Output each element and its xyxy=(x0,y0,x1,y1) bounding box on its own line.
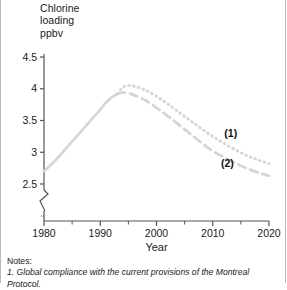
series-annotation-2: (2) xyxy=(221,157,234,169)
x-tick-label: 1980 xyxy=(32,227,56,239)
chart-notes: Notes: 1. Global compliance with the cur… xyxy=(7,256,283,290)
y-tick-label: 4.5 xyxy=(22,51,37,63)
series-line-2 xyxy=(117,93,269,176)
x-tick-label: 2020 xyxy=(257,227,281,239)
series-line-historical xyxy=(44,94,117,171)
y-tick-label: 4 xyxy=(31,82,37,94)
x-tick-label: 2000 xyxy=(145,227,169,239)
y-axis-break-symbol xyxy=(40,190,48,211)
notes-item-1: 1. Global compliance with the current pr… xyxy=(7,267,283,290)
x-axis-title: Year xyxy=(145,241,168,253)
y-tick-label: 3.5 xyxy=(22,114,37,126)
y-tick-label: 2.5 xyxy=(22,178,37,190)
series-annotation-1: (1) xyxy=(224,127,237,139)
series-line-1 xyxy=(117,85,269,163)
chart-plot-area: 2.533.544.519801990200020102020Year(1)(2… xyxy=(1,0,287,283)
x-tick-label: 1990 xyxy=(89,227,113,239)
x-tick-label: 2010 xyxy=(201,227,225,239)
notes-heading: Notes: xyxy=(7,256,283,267)
y-tick-label: 3 xyxy=(31,146,37,158)
